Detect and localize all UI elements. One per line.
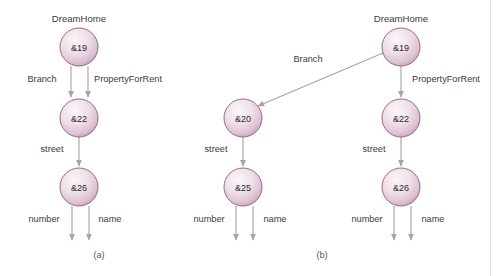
panel-b: DreamHome Branch PropertyForRent street …	[193, 13, 480, 260]
edge-label-a-number: number	[28, 214, 59, 224]
edge-label-b-street-right: street	[363, 144, 386, 154]
figure-root: DreamHome Branch PropertyForRent street …	[0, 0, 500, 276]
panel-a: DreamHome Branch PropertyForRent street …	[27, 13, 162, 260]
panel-a-caption: (a)	[93, 250, 104, 260]
node-b-22-label: &22	[393, 114, 409, 124]
node-b-25[interactable]: &25	[224, 168, 262, 206]
edge-label-b-name-left: name	[264, 214, 287, 224]
node-b-19-label: &19	[393, 43, 409, 53]
node-a-22[interactable]: &22	[60, 99, 98, 137]
node-a-26[interactable]: &26	[60, 168, 98, 206]
edge-label-b-number-left: number	[193, 214, 224, 224]
node-b-26[interactable]: &26	[382, 168, 420, 206]
node-b-19[interactable]: &19	[382, 28, 420, 66]
edge-label-b-street-left: street	[205, 144, 228, 154]
object-graph-diagram: DreamHome Branch PropertyForRent street …	[0, 0, 500, 276]
node-a-19-label: &19	[71, 43, 87, 53]
edge-label-a-branch: Branch	[27, 74, 56, 84]
panel-b-caption: (b)	[316, 250, 327, 260]
node-a-19[interactable]: &19	[60, 28, 98, 66]
node-b-26-label: &26	[393, 183, 409, 193]
node-b-22[interactable]: &22	[382, 99, 420, 137]
node-b-20-label: &20	[235, 114, 251, 124]
panel-b-root-label: DreamHome	[374, 13, 428, 24]
node-b-20[interactable]: &20	[224, 99, 262, 137]
node-a-22-label: &22	[71, 114, 87, 124]
edge-label-a-propertyforrent: PropertyForRent	[94, 74, 162, 84]
edge-label-b-name-right: name	[422, 214, 445, 224]
panel-a-root-label: DreamHome	[52, 13, 106, 24]
edge-label-b-propertyforrent: PropertyForRent	[412, 74, 480, 84]
edge-label-b-number-right: number	[351, 214, 382, 224]
edge-label-a-name: name	[99, 214, 122, 224]
edge-label-a-street: street	[41, 144, 64, 154]
node-a-26-label: &26	[71, 183, 87, 193]
edge-label-b-branch: Branch	[293, 54, 322, 64]
node-b-25-label: &25	[235, 183, 251, 193]
